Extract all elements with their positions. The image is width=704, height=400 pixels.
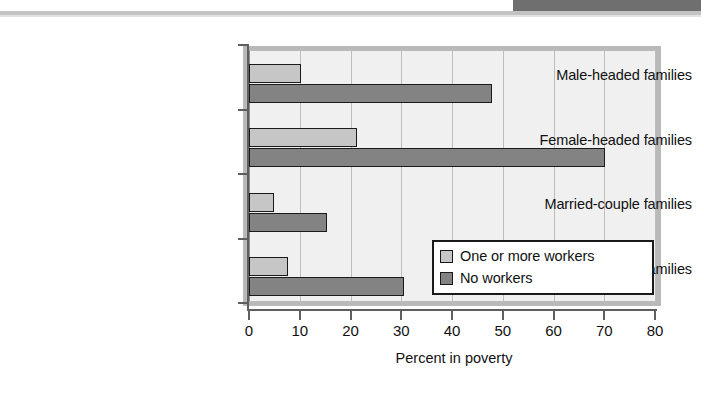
x-axis-label-60: 60 <box>534 322 574 339</box>
y-axis-label-0: Male-headed families <box>466 67 704 83</box>
x-axis-label-70: 70 <box>584 322 624 339</box>
legend-label-1: No workers <box>460 270 532 286</box>
bar-one-or-more-workers-0 <box>249 64 301 83</box>
x-axis-tick-20 <box>350 311 352 320</box>
x-axis-tick-40 <box>451 311 453 320</box>
x-axis-label-30: 30 <box>381 322 421 339</box>
bar-one-or-more-workers-1 <box>249 128 357 147</box>
legend-item-1[interactable]: No workers <box>440 267 646 289</box>
x-axis-label-20: 20 <box>331 322 371 339</box>
y-axis-tick-2 <box>238 173 247 175</box>
chart-legend: One or more workersNo workers <box>432 240 654 295</box>
x-axis-tick-70 <box>603 311 605 320</box>
x-axis-title: Percent in poverty <box>249 350 659 366</box>
x-axis-label-0: 0 <box>229 322 269 339</box>
legend-label-0: One or more workers <box>460 248 594 264</box>
bar-chart: Male-headed familiesFemale-headed famili… <box>0 0 704 400</box>
x-axis-tick-0 <box>248 311 250 320</box>
y-axis-tick-3 <box>238 238 247 240</box>
legend-swatch-icon-1 <box>440 272 453 285</box>
x-axis-tick-30 <box>400 311 402 320</box>
y-axis-label-2: Married-couple families <box>466 196 704 212</box>
x-axis-label-50: 50 <box>483 322 523 339</box>
y-axis-tick-4 <box>238 302 247 304</box>
x-axis-label-80: 80 <box>635 322 675 339</box>
y-axis-line <box>247 44 249 310</box>
x-axis-tick-80 <box>654 311 656 320</box>
bar-no-workers-0 <box>249 84 492 103</box>
x-axis-label-10: 10 <box>280 322 320 339</box>
y-axis-label-1: Female-headed families <box>466 132 704 148</box>
bar-one-or-more-workers-3 <box>249 257 288 276</box>
bar-no-workers-2 <box>249 213 327 232</box>
bar-no-workers-1 <box>249 148 605 167</box>
y-axis-tick-0 <box>238 44 247 46</box>
x-axis-tick-50 <box>502 311 504 320</box>
x-axis-tick-60 <box>553 311 555 320</box>
legend-swatch-icon-0 <box>440 250 453 263</box>
y-axis-tick-1 <box>238 109 247 111</box>
bar-no-workers-3 <box>249 277 404 296</box>
legend-item-0[interactable]: One or more workers <box>440 245 646 267</box>
x-axis-tick-10 <box>299 311 301 320</box>
x-axis-label-40: 40 <box>432 322 472 339</box>
bar-one-or-more-workers-2 <box>249 193 274 212</box>
